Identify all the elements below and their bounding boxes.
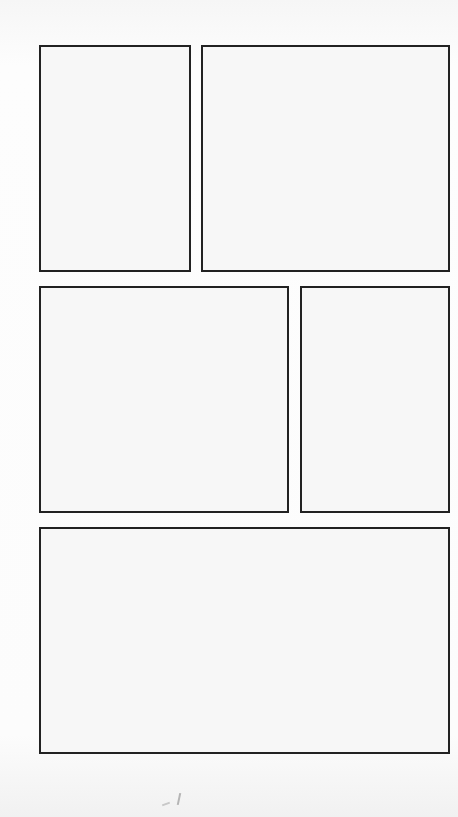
comic-panel-4 [300,286,450,513]
comic-panel-5 [39,527,450,754]
comic-panel-3 [39,286,289,513]
comic-panel-1 [39,45,191,272]
comic-panel-2 [201,45,450,272]
